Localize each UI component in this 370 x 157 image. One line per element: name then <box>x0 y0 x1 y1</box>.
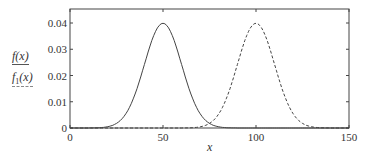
chart-canvas: 05010015000.010.020.030.04 <box>0 0 370 157</box>
y-tick-label: 0.02 <box>48 70 67 82</box>
legend-f1: f1(x) <box>12 70 33 87</box>
y-tick-label: 0.04 <box>48 17 68 29</box>
legend-f: f(x) <box>12 49 29 65</box>
y-tick-label: 0 <box>62 122 68 134</box>
series-f-line <box>70 23 349 128</box>
x-tick-label: 0 <box>67 131 73 143</box>
series-f1-line <box>70 23 349 128</box>
x-tick-label: 100 <box>248 131 265 143</box>
y-tick-label: 0.01 <box>48 96 67 108</box>
plot-frame <box>70 9 349 128</box>
x-tick-label: 150 <box>341 131 358 143</box>
x-tick-label: 50 <box>158 131 170 143</box>
x-axis-label: x <box>207 140 212 155</box>
y-tick-label: 0.03 <box>48 43 68 55</box>
